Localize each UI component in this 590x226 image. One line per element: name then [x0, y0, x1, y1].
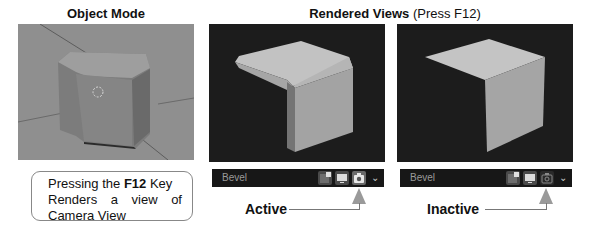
display-icon[interactable] [335, 171, 349, 185]
active-pointer-line [289, 209, 360, 210]
inactive-label: Inactive [427, 201, 479, 217]
callout-word: of [171, 192, 182, 208]
plain-cube-render [397, 24, 573, 162]
object-mode-title: Object Mode [18, 6, 194, 21]
active-arrow-icon [352, 188, 366, 204]
callout-word: view [132, 192, 158, 208]
inactive-pointer-line [485, 209, 547, 210]
header-label: Bevel [410, 172, 435, 183]
rendered-view-plain [397, 24, 573, 162]
camera-icon[interactable] [540, 171, 554, 185]
object-mode-viewport[interactable] [18, 24, 194, 160]
callout-word: Renders [48, 192, 97, 208]
bevel-cube-object-mode [18, 24, 194, 160]
render-header-inactive: Bevel ⌄ [400, 169, 572, 187]
image-editor-icon[interactable] [506, 171, 520, 185]
rendered-views-title-note: (Press F12) [413, 6, 481, 21]
callout-text: Pressing the [48, 176, 124, 191]
rendered-view-bevel [209, 24, 385, 162]
render-header-active: Bevel ⌄ [212, 169, 384, 187]
callout-word: a [111, 192, 118, 208]
f12-callout: Pressing the F12 Key Renders a view of C… [31, 171, 193, 221]
header-label: Bevel [222, 172, 247, 183]
callout-key: F12 [124, 176, 146, 191]
image-editor-icon[interactable] [318, 171, 332, 185]
active-label: Active [245, 201, 287, 217]
rendered-views-title: Rendered Views (Press F12) [260, 6, 530, 21]
callout-text: Key [146, 176, 172, 191]
display-icon[interactable] [523, 171, 537, 185]
chevron-down-icon[interactable]: ⌄ [368, 171, 382, 185]
inactive-arrow-icon [539, 188, 553, 204]
callout-line-3: Camera View [48, 208, 182, 224]
callout-line-2: Renders a view of [48, 192, 182, 208]
camera-icon[interactable] [352, 171, 366, 185]
bevel-cube-render [209, 24, 385, 162]
rendered-views-title-bold: Rendered Views [309, 6, 409, 21]
callout-line-1: Pressing the F12 Key [48, 176, 182, 192]
chevron-down-icon[interactable]: ⌄ [556, 171, 570, 185]
